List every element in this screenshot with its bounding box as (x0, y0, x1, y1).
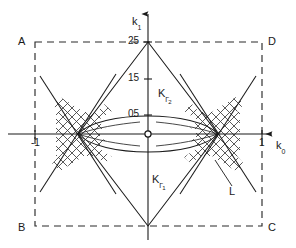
y-tick-label-15: 15 (128, 73, 139, 83)
region-label-k-gamma-1-sub2: 1 (162, 185, 165, 191)
y-axis-label: k1 (132, 16, 141, 29)
x-tick-label-1: 1 (259, 138, 265, 148)
corner-label-b: B (18, 222, 25, 233)
x-axis-label-text: k (276, 139, 282, 151)
corner-label-c: C (268, 222, 276, 233)
origin-marker (145, 131, 151, 137)
region-label-k-gamma-2: KΓ2 (158, 88, 173, 101)
region-label-k-gamma-2-sub2: 2 (168, 99, 171, 105)
y-axis-label-sub: 1 (138, 24, 142, 31)
corner-label-d: D (268, 36, 276, 47)
x-axis-label: k0 (276, 140, 285, 153)
k0-k1-plane-figure (0, 0, 296, 248)
y-tick-label-25: 25 (128, 36, 139, 46)
callout-label-l: L (229, 186, 235, 197)
x-axis-label-sub: 0 (282, 148, 286, 155)
y-axis-label-text: k (132, 15, 138, 27)
region-label-k-gamma-1: KΓ1 (152, 174, 167, 187)
y-tick-label-05: 05 (128, 109, 139, 119)
x-tick-label-minus-1: -1 (31, 138, 40, 148)
diagram-canvas: A D B C k1 k0 25 15 05 -1 1 KΓ2 KΓ1 L (0, 0, 296, 248)
corner-label-a: A (18, 36, 25, 47)
